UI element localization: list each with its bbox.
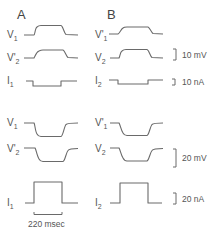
scale-label: 10 mV (182, 50, 207, 60)
time-scale-bar: 220 msec (28, 212, 66, 229)
trace-v1prime-depolarizing (109, 27, 163, 34)
scale-bar-10mv: 10 mV (173, 49, 207, 60)
bracket (173, 193, 176, 204)
scale-label: 20 mV (182, 153, 207, 163)
scale-bar-20mv: 20 mV (173, 149, 207, 167)
trace-label: V'1 (95, 117, 108, 130)
panel-b-top-v2: V2 (95, 50, 163, 66)
panel-a-top-v2prime: V'2 (7, 50, 78, 65)
scale-bar-10na: 10 nA (172, 77, 205, 87)
trace-label: V1 (7, 117, 18, 130)
panel-b-bottom-v1prime: V'1 (95, 117, 163, 136)
trace-v2-hyperpolarizing (110, 148, 163, 161)
panel-b-bottom-i2: I2 (95, 183, 162, 210)
electrophysiology-figure: A B V1 V'2 I1 V1 V'2 I1 220 msec V'1 V2 (0, 0, 215, 236)
trace-label: I1 (7, 75, 14, 88)
trace-label: I2 (95, 197, 102, 210)
panel-label-a: A (17, 7, 26, 22)
trace-v2prime-hyperpolarizing (24, 148, 78, 162)
trace-label: I2 (95, 75, 102, 88)
panel-a-bottom-i1: I1 (7, 182, 78, 210)
trace-label: V2 (95, 52, 106, 65)
panel-label-b: B (107, 7, 116, 22)
panel-a-top-v1: V1 (7, 26, 78, 43)
scale-bar-20na: 20 nA (173, 193, 205, 204)
trace-v2-depolarizing (110, 50, 163, 59)
trace-label: I1 (7, 197, 14, 210)
panel-a-top-i1: I1 (7, 75, 77, 88)
panel-a-bottom-v1: V1 (7, 117, 78, 137)
panel-b-bottom-v2: V2 (95, 143, 163, 161)
trace-v1prime-hyperpolarizing (110, 123, 163, 136)
trace-i2-depolarizing-pulse (110, 183, 162, 203)
bracket (173, 49, 176, 60)
trace-v1-depolarizing (24, 26, 78, 36)
trace-v1-hyperpolarizing (24, 123, 78, 137)
panel-b-top-i2: I2 (95, 75, 163, 88)
scale-label: 20 nA (182, 194, 205, 204)
trace-i1-depolarizing-pulse (25, 182, 78, 203)
trace-label: V'1 (95, 29, 108, 42)
panel-b-top-v1prime: V'1 (95, 27, 163, 42)
trace-v2prime-depolarizing (24, 50, 78, 58)
time-scale-label: 220 msec (28, 219, 66, 229)
trace-label: V'2 (7, 52, 20, 65)
trace-i1-hyperpolarizing-pulse (26, 81, 77, 86)
trace-label: V1 (7, 29, 18, 42)
bracket (173, 149, 176, 167)
time-bar (34, 212, 62, 215)
panel-a-bottom-v2prime: V'2 (7, 143, 78, 162)
trace-label: V'2 (7, 143, 20, 156)
trace-i2-hyperpolarizing-pulse (109, 80, 163, 84)
scale-label: 10 nA (182, 77, 205, 87)
trace-label: V2 (95, 143, 106, 156)
bracket (172, 79, 175, 85)
